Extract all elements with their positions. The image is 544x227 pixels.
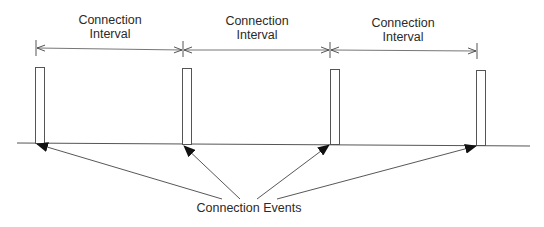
event-pulse-1	[36, 68, 45, 144]
event-pointer-arrows	[37, 144, 476, 199]
event-arrow-4	[277, 146, 476, 199]
interval-label-3-line1: Connection	[371, 16, 434, 30]
event-pulses	[36, 68, 486, 146]
interval-label-1-line2: Interval	[90, 27, 131, 41]
event-arrow-3	[257, 145, 329, 199]
event-pulse-2	[183, 69, 192, 145]
timeline-baseline	[17, 143, 530, 146]
interval-label-2-line2: Interval	[237, 28, 278, 42]
interval-arrow-1	[37, 48, 182, 50]
interval-arrows	[37, 48, 476, 51]
interval-label-1: Connection Interval	[78, 13, 141, 41]
event-pulse-4	[477, 71, 486, 146]
interval-label-1-line1: Connection	[78, 13, 141, 27]
event-pulse-3	[331, 70, 340, 145]
connection-interval-diagram: Connection Interval Connection Interval …	[0, 0, 544, 227]
interval-label-3: Connection Interval	[371, 16, 434, 44]
interval-label-3-line2: Interval	[383, 30, 424, 44]
interval-label-2-line1: Connection	[225, 14, 288, 28]
connection-events-label: Connection Events	[197, 201, 302, 215]
event-arrow-1	[37, 144, 222, 199]
interval-label-2: Connection Interval	[225, 14, 288, 42]
interval-arrow-3	[331, 50, 476, 51]
event-arrow-2	[184, 146, 240, 199]
